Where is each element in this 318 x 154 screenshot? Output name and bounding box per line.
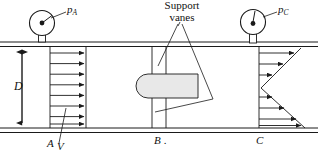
figure-canvas: pA pC Support vanes D A V B. C bbox=[0, 0, 318, 154]
station-c-velocity-arrows bbox=[259, 53, 301, 126]
diameter-label: D bbox=[14, 80, 23, 92]
gauge-A-label: pA bbox=[67, 4, 77, 16]
gauge-A-leader-line bbox=[51, 12, 66, 18]
gauge-hub-C bbox=[251, 21, 256, 26]
gauge-hub-A bbox=[40, 21, 45, 26]
velocity-leader-line bbox=[59, 108, 66, 143]
support-vanes-label-line2: vanes bbox=[158, 12, 206, 23]
duct-bottom-wall bbox=[0, 128, 318, 133]
support-vanes-label-line1: Support bbox=[158, 0, 206, 11]
station-b-label: B. bbox=[154, 135, 166, 146]
duct-top-wall bbox=[0, 42, 318, 47]
gauge-C-label: pC bbox=[278, 4, 288, 16]
velocity-label: V bbox=[57, 141, 64, 152]
station-c-profile-envelope bbox=[261, 48, 305, 128]
pressure-gauge-C[interactable] bbox=[241, 10, 278, 44]
gauge-C-leader-line bbox=[263, 12, 277, 17]
hub-body bbox=[136, 74, 198, 98]
station-a-reference-lines bbox=[50, 47, 86, 129]
station-a-velocity-arrows bbox=[50, 53, 84, 124]
station-c-label: C bbox=[256, 135, 263, 146]
station-a-label: A bbox=[47, 138, 54, 149]
diagram-svg bbox=[0, 0, 318, 154]
support-vanes-leader-lines bbox=[155, 24, 213, 112]
pressure-gauge-A[interactable] bbox=[30, 11, 67, 43]
